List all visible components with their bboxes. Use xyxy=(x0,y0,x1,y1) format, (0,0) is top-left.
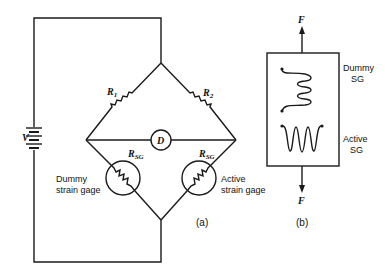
active-sg-pattern xyxy=(282,126,322,152)
caption-b: (b) xyxy=(296,217,308,228)
dummy-sg-pattern xyxy=(282,69,311,111)
r2-label: R2 xyxy=(202,87,214,100)
source-label: V xyxy=(22,132,30,143)
dummy-sg-label-2: SG xyxy=(351,74,364,84)
dummy-sg-label-1: Dummy xyxy=(343,63,374,73)
force-arrow-down-icon xyxy=(299,185,305,193)
detector-label: D xyxy=(156,135,164,146)
rsg-right-label: RSG xyxy=(198,148,215,161)
supply-wire xyxy=(34,18,161,127)
dummy-gage-label-2: strain gage xyxy=(56,185,101,195)
dummy-gage-zigzag xyxy=(111,165,135,191)
rsg-left-label: RSG xyxy=(127,148,144,161)
r1-resistor xyxy=(86,63,161,140)
active-gage-zigzag xyxy=(187,165,211,191)
r2-resistor xyxy=(161,63,236,140)
active-gage-label-2: strain gage xyxy=(221,185,266,195)
return-wire xyxy=(34,150,161,262)
strain-gage-bridge-diagram: V R1 R2 D RSG RSG Dummy strain gage Acti… xyxy=(0,0,385,276)
active-gage-label-1: Active xyxy=(221,174,246,184)
force-top-label: F xyxy=(297,14,305,25)
caption-a: (a) xyxy=(196,217,208,228)
force-bottom-label: F xyxy=(297,195,305,206)
r1-label: R1 xyxy=(106,86,117,99)
dummy-gage-label-1: Dummy xyxy=(56,174,87,184)
force-arrow-up-icon xyxy=(299,26,305,34)
active-sg-label-2: SG xyxy=(350,145,363,155)
active-sg-label-1: Active xyxy=(343,134,368,144)
